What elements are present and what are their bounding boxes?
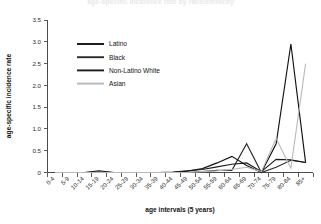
legend-label-black: Black	[109, 54, 126, 61]
x-axis-title: age intervals (5 years)	[145, 206, 214, 214]
x-tick-label: 35-39	[143, 174, 159, 190]
x-tick-label: 85+	[294, 174, 307, 187]
x-tick-label: 55-59	[202, 174, 218, 190]
y-axis-ticks: 00.51.01.52.02.53.03.5	[32, 16, 47, 176]
chart-figure: age-specific incidence rate by race/ethn…	[0, 0, 321, 224]
x-axis-tick-labels: 0-45-910-1415-1920-2425-2930-3435-3940-4…	[44, 174, 306, 190]
y-tick-label: 0.5	[32, 147, 41, 154]
series-line-latino	[55, 44, 306, 173]
x-tick-label: 80-84	[276, 174, 292, 190]
line-chart-plot: 00.51.01.52.02.53.03.5 0-45-910-1415-192…	[0, 0, 321, 224]
x-tick-label: 30-34	[128, 174, 144, 190]
series-line-asian	[55, 64, 306, 173]
y-tick-label: 3.5	[32, 16, 41, 23]
x-tick-label: 70-74	[246, 174, 262, 190]
x-tick-label: 0-4	[44, 174, 56, 186]
legend: LatinoBlackNon-Latino WhiteAsian	[77, 40, 160, 87]
y-tick-label: 0	[38, 169, 42, 176]
x-tick-label: 65-69	[231, 174, 247, 190]
x-tick-label: 10-14	[69, 174, 85, 190]
x-tick-label: 60-64	[217, 174, 233, 190]
series-line-black	[55, 144, 306, 173]
x-tick-label: 15-19	[84, 174, 100, 190]
x-tick-label: 5-9	[59, 174, 71, 186]
y-axis-title: age-specific incidence rate	[5, 54, 13, 139]
x-tick-label: 25-29	[113, 174, 129, 190]
x-tick-label: 50-54	[187, 174, 203, 190]
x-tick-label: 75-79	[261, 174, 277, 190]
y-tick-label: 2.0	[32, 82, 41, 89]
x-tick-label: 20-24	[99, 174, 115, 190]
legend-label-asian: Asian	[109, 80, 126, 87]
x-tick-label: 45-49	[172, 174, 188, 190]
data-series-group	[55, 44, 306, 173]
y-tick-label: 2.5	[32, 60, 41, 67]
y-tick-label: 1.0	[32, 125, 41, 132]
y-tick-label: 1.5	[32, 103, 41, 110]
x-tick-label: 40-44	[158, 174, 174, 190]
x-axis-ticks	[48, 173, 314, 177]
y-tick-label: 3.0	[32, 38, 41, 45]
legend-label-latino: Latino	[109, 40, 127, 47]
legend-label-non-latino-white: Non-Latino White	[109, 67, 160, 74]
